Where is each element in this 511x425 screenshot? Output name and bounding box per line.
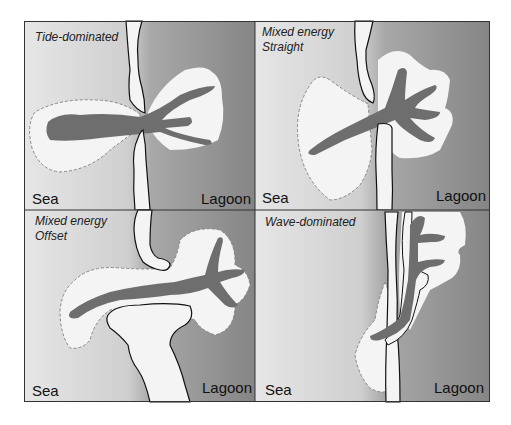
panel-title-line-1: Mixed energy	[262, 25, 335, 39]
panel-mixed-energy-straight: Mixed energy Straight Sea Lagoon	[255, 21, 490, 210]
sea-label: Sea	[262, 189, 289, 206]
panel-mixed-energy-offset: Mixed energy Offset Sea Lagoon	[24, 210, 255, 402]
panel-title: Tide-dominated	[35, 30, 119, 44]
barrier-island-south	[376, 124, 393, 211]
panel-title-line-1: Mixed energy	[35, 214, 108, 228]
panel-title-line-2: Straight	[262, 40, 304, 54]
sea-label: Sea	[32, 190, 59, 207]
panel-title: Wave-dominated	[265, 215, 356, 229]
lagoon-label: Lagoon	[202, 379, 252, 396]
sea-label: Sea	[32, 382, 59, 399]
lagoon-label: Lagoon	[201, 190, 251, 207]
panel-title-line-2: Offset	[35, 229, 68, 243]
panel-wave-dominated: Wave-dominated Sea Lagoon	[255, 210, 490, 402]
tidal-inlet-diagram: Tide-dominated Sea Lagoon Mixed energy S…	[0, 0, 511, 425]
lagoon-label: Lagoon	[434, 379, 484, 396]
panel-tide-dominated: Tide-dominated Sea Lagoon	[24, 21, 255, 210]
sea-label: Sea	[265, 381, 292, 398]
lagoon-label: Lagoon	[436, 187, 486, 204]
